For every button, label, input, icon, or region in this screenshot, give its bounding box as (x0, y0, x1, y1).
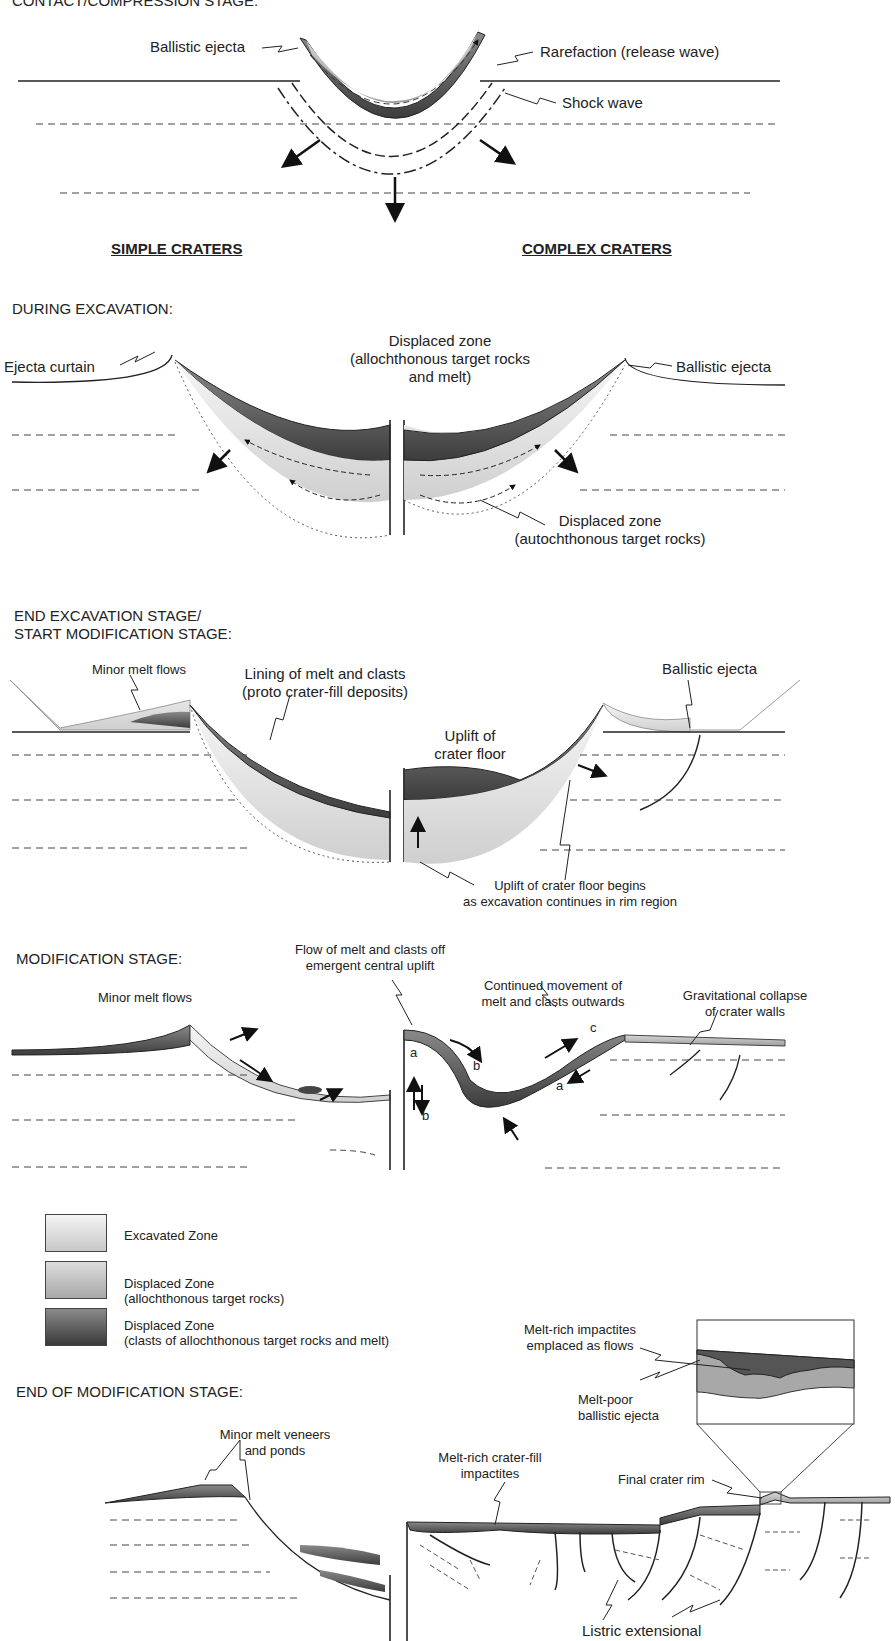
label-crater-fill-impactites: Melt-rich crater-fill impactites (420, 1450, 560, 1482)
label-letter-c: c (590, 1020, 597, 1036)
line: and ponds (245, 1443, 306, 1458)
line: Minor melt veneers (220, 1427, 331, 1442)
complex-craters-header: COMPLEX CRATERS (522, 240, 672, 257)
line: Displaced Zone (124, 1276, 214, 1291)
label-shock-wave: Shock wave (562, 94, 643, 112)
label-displaced-autochthonous: Displaced zone (autochthonous target roc… (495, 512, 725, 548)
line: and melt) (409, 368, 472, 385)
line: Melt-rich crater-fill (438, 1450, 541, 1465)
label-displaced-allochthonous: Displaced zone (allochthonous target roc… (330, 332, 550, 386)
line: crater floor (434, 745, 506, 762)
stage-end-excavation-label-2: START MODIFICATION STAGE: (14, 625, 232, 643)
line: ballistic ejecta (578, 1408, 659, 1423)
line: Lining of melt and clasts (245, 665, 406, 682)
line: Uplift of (445, 727, 496, 744)
legend-label-displaced-allochthonous: Displaced Zone (allochthonous target roc… (124, 1276, 284, 1306)
label-rarefaction: Rarefaction (release wave) (540, 43, 719, 61)
legend-swatch-displaced-allochthonous (45, 1261, 107, 1299)
line: Displaced zone (559, 512, 662, 529)
legend-label-displaced-clasts: Displaced Zone (clasts of allochthonous … (124, 1318, 389, 1348)
modification-stage-drawing (12, 1025, 785, 1170)
line: (proto crater-fill deposits) (242, 683, 408, 700)
label-minor-melt-flows-2: Minor melt flows (98, 990, 192, 1006)
legend-swatch-excavated (45, 1214, 107, 1252)
line: Gravitational collapse (683, 988, 807, 1003)
stage-modification-label: MODIFICATION STAGE: (16, 950, 182, 968)
label-gravitational-collapse: Gravitational collapse of crater walls (665, 988, 825, 1020)
line: (autochthonous target rocks) (515, 530, 706, 547)
end-excavation-stage-drawing (10, 680, 800, 864)
label-letter-b2: b (422, 1108, 429, 1124)
line: Displaced Zone (124, 1318, 214, 1333)
line: emplaced as flows (527, 1338, 634, 1353)
label-minor-melt-flows-1: Minor melt flows (92, 662, 186, 678)
label-melt-rich-flows: Melt-rich impactites emplaced as flows (510, 1322, 650, 1354)
label-continued-movement: Continued movement of melt and clasts ou… (458, 978, 648, 1010)
label-letter-a1: a (410, 1045, 417, 1061)
line: melt and clasts outwards (481, 994, 624, 1009)
label-melt-poor-ejecta: Melt-poor ballistic ejecta (578, 1392, 659, 1424)
stage-end-excavation-label-1: END EXCAVATION STAGE/ (14, 607, 201, 625)
line: Uplift of crater floor begins (494, 878, 646, 893)
label-melt-veneers: Minor melt veneers and ponds (205, 1427, 345, 1459)
legend-label-excavated: Excavated Zone (124, 1228, 218, 1243)
line: Displaced zone (389, 332, 492, 349)
stage-end-modification-label: END OF MODIFICATION STAGE: (16, 1383, 243, 1401)
label-end-ballistic-ejecta: Ballistic ejecta (662, 660, 757, 678)
simple-craters-header: SIMPLE CRATERS (111, 240, 242, 257)
stage-contact-label: CONTACT/COMPRESSION STAGE: (12, 0, 258, 10)
label-letter-a2: a (556, 1078, 563, 1094)
line: as excavation continues in rim region (463, 894, 677, 909)
label-uplift-begins: Uplift of crater floor begins as excavat… (440, 878, 700, 910)
line: of crater walls (705, 1004, 785, 1019)
line: Melt-rich impactites (524, 1322, 636, 1337)
stage-excavation-label: DURING EXCAVATION: (12, 300, 173, 318)
line: (allochthonous target rocks) (124, 1291, 284, 1306)
label-listric-extensional: Listric extensional (582, 1622, 701, 1640)
label-final-crater-rim: Final crater rim (618, 1472, 705, 1488)
line: emergent central uplift (306, 958, 435, 973)
legend-swatch-displaced-clasts (45, 1308, 107, 1346)
label-contact-ballistic-ejecta: Ballistic ejecta (150, 38, 245, 56)
label-ejecta-curtain: Ejecta curtain (4, 358, 95, 376)
line: (allochthonous target rocks (350, 350, 530, 367)
line: impactites (461, 1466, 520, 1481)
line: Flow of melt and clasts off (295, 942, 445, 957)
label-flow-melt-clasts: Flow of melt and clasts off emergent cen… (270, 942, 470, 974)
label-uplift-crater-floor: Uplift of crater floor (420, 727, 520, 763)
line: Continued movement of (484, 978, 622, 993)
label-letter-b1: b (473, 1058, 480, 1074)
line: Melt-poor (578, 1392, 633, 1407)
label-exc-ballistic-ejecta: Ballistic ejecta (676, 358, 771, 376)
line: (clasts of allochthonous target rocks an… (124, 1333, 389, 1348)
label-lining-melt-clasts: Lining of melt and clasts (proto crater-… (225, 665, 425, 701)
